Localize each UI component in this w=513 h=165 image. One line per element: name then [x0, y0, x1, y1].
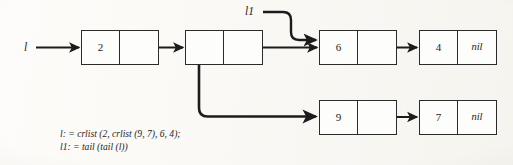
node-7-nil-cell: nil — [458, 101, 496, 134]
pointer-label-l: l — [24, 42, 27, 54]
node-sublist-pointer-cell-right — [224, 31, 262, 64]
node-2: 2 — [81, 30, 159, 65]
caption-line-1: l: = crlist (2, crlist (9, 7), 6, 4); — [60, 128, 181, 141]
linked-list-diagram: l l1 2 6 4 nil 9 7 n — [0, 0, 513, 165]
arrow-l1-to-node6 — [263, 12, 316, 40]
node-sublist — [185, 30, 263, 65]
node-2-pointer-cell — [120, 31, 158, 64]
pointer-label-l1: l1 — [245, 6, 254, 18]
node-9-value-cell: 9 — [320, 101, 358, 134]
node-9-value: 9 — [336, 112, 342, 123]
caption-line-2: l1: = tail (tail (l)) — [60, 141, 181, 154]
node-6-pointer-cell — [358, 31, 396, 64]
node-6: 6 — [319, 30, 397, 65]
caption-line-1-text: l: = crlist (2, crlist (9, 7), 6, 4); — [60, 128, 181, 139]
node-sublist-pointer-cell-left — [186, 31, 224, 64]
node-4-value-cell: 4 — [420, 31, 458, 64]
node-6-value-cell: 6 — [320, 31, 358, 64]
figure-caption: l: = crlist (2, crlist (9, 7), 6, 4); l1… — [60, 128, 181, 153]
caption-line-2-text: l1: = tail (tail (l)) — [60, 141, 128, 152]
node-7-nil-label: nil — [471, 112, 482, 123]
node-4: 4 nil — [419, 30, 497, 65]
node-2-value-cell: 2 — [82, 31, 120, 64]
node-9: 9 — [319, 100, 397, 135]
node-4-nil-cell: nil — [458, 31, 496, 64]
node-7-value: 7 — [436, 112, 442, 123]
node-9-pointer-cell — [358, 101, 396, 134]
node-7-value-cell: 7 — [420, 101, 458, 134]
node-2-value: 2 — [98, 42, 104, 53]
node-6-value: 6 — [336, 42, 342, 53]
node-7: 7 nil — [419, 100, 497, 135]
node-4-value: 4 — [436, 42, 442, 53]
node-4-nil-label: nil — [471, 42, 482, 53]
